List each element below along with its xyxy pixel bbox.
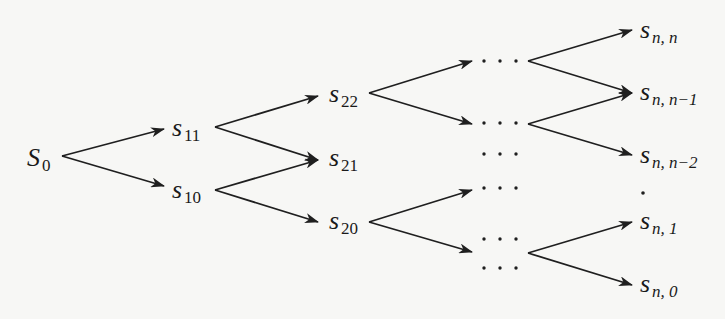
svg-text:S: S (27, 143, 40, 172)
edge-dots5-sn0 (528, 253, 632, 285)
svg-text:10: 10 (184, 188, 201, 207)
edge-s20-dots5 (369, 222, 472, 252)
ellipsis-row-4 (482, 186, 517, 189)
svg-text:20: 20 (341, 219, 358, 238)
node-s11: s 11 (172, 113, 200, 145)
ellipsis-markers (482, 59, 645, 269)
edge-dots1-snn (528, 30, 632, 61)
svg-text:s: s (640, 140, 650, 169)
edge-s0-s11 (62, 129, 164, 156)
svg-text:s: s (172, 175, 182, 204)
ellipsis-row-6 (482, 266, 517, 269)
ellipsis-row-1 (482, 59, 517, 62)
svg-text:11: 11 (184, 126, 200, 145)
svg-text:s: s (640, 15, 650, 44)
node-s21: s 21 (329, 143, 358, 175)
svg-text:21: 21 (341, 156, 358, 175)
edge-dots2-snn1 (528, 93, 632, 124)
edge-dots5-sn1 (528, 222, 632, 253)
edge-dots1-snn1 (528, 61, 632, 93)
edge-s10-s21 (215, 160, 318, 190)
node-sn0: s n, 0 (640, 269, 678, 301)
node-s22: s 22 (329, 79, 358, 111)
edge-s11-s21 (215, 127, 318, 160)
edge-s11-s22 (215, 96, 318, 127)
node-s20: s 20 (329, 206, 358, 238)
edge-s22-dots2 (369, 93, 472, 124)
svg-text:s: s (640, 77, 650, 106)
node-s10: s 10 (172, 175, 201, 207)
svg-text:n, n−1: n, n−1 (652, 90, 697, 109)
ellipsis-row-3 (482, 152, 517, 155)
svg-text:n, n: n, n (652, 28, 678, 47)
ellipsis-row-2 (482, 121, 517, 124)
edge-s0-s10 (62, 156, 164, 186)
svg-text:s: s (329, 143, 339, 172)
edge-s22-dots1 (369, 61, 472, 93)
svg-text:s: s (329, 79, 339, 108)
svg-text:s: s (329, 206, 339, 235)
edge-s10-s20 (215, 190, 318, 222)
svg-text:n, n−2: n, n−2 (652, 153, 698, 172)
svg-text:s: s (640, 206, 650, 235)
svg-text:0: 0 (42, 156, 51, 175)
node-snn2: s n, n−2 (640, 140, 698, 172)
svg-text:n, 1: n, 1 (652, 219, 678, 238)
ellipsis-row-5 (482, 237, 517, 240)
edge-s20-dots4 (369, 190, 472, 222)
binomial-tree-diagram: S 0 s 11 s 10 s 22 s 21 s 20 s n, n (0, 0, 725, 319)
node-snn: s n, n (640, 15, 678, 47)
node-snn1: s n, n−1 (640, 77, 697, 109)
svg-text:n, 0: n, 0 (652, 282, 678, 301)
svg-text:s: s (172, 113, 182, 142)
edge-dots2-snn2 (528, 124, 632, 155)
node-s0: S 0 (27, 143, 51, 175)
node-sn1: s n, 1 (640, 206, 678, 238)
svg-text:22: 22 (341, 92, 358, 111)
vertical-ellipsis-dot (641, 191, 645, 195)
svg-text:s: s (640, 269, 650, 298)
